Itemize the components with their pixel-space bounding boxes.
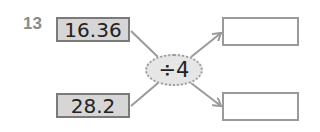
arrow-top-output — [191, 33, 221, 57]
answer-box-top[interactable] — [222, 17, 299, 46]
operator-label: ÷4 — [159, 58, 190, 82]
connector-bottom-input — [131, 83, 158, 106]
answer-box-bottom[interactable] — [222, 92, 299, 121]
input-box-bottom: 28.2 — [56, 93, 130, 118]
connector-top-input — [131, 31, 158, 57]
problem-number: 13 — [23, 14, 42, 34]
input-box-top: 16.36 — [56, 17, 130, 42]
operator-ellipse: ÷4 — [145, 54, 203, 86]
arrow-bottom-output — [191, 83, 221, 106]
